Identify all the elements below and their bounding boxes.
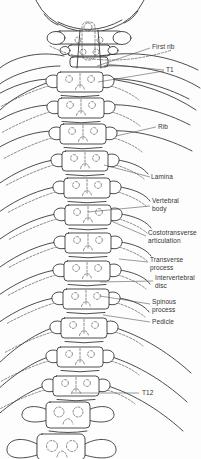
spine-diagram-figure: First rib T1 Rib Lamina Vertebral body C… bbox=[0, 0, 201, 459]
label-rib: Rib bbox=[158, 123, 168, 131]
thoracic-vertebra bbox=[0, 376, 183, 431]
label-spinous-process: Spinous process bbox=[152, 298, 186, 313]
label-lamina: Lamina bbox=[151, 173, 173, 181]
leader-lamina bbox=[104, 165, 150, 177]
label-t1: T1 bbox=[166, 66, 174, 74]
leader-t1-upper bbox=[106, 64, 164, 70]
leader-transverse-process bbox=[119, 259, 148, 262]
label-first-rib: First rib bbox=[152, 43, 175, 51]
label-costotransverse-articulation: Costotransverse articulation bbox=[148, 229, 198, 244]
label-pedicle: Pedicle bbox=[152, 318, 174, 326]
label-vertebral-body: Vertebral body bbox=[152, 197, 186, 212]
label-transverse-process: Transverse process bbox=[150, 256, 190, 271]
label-intervertebral-disc: Intervertebral disc bbox=[155, 274, 199, 289]
label-t12: T12 bbox=[142, 389, 154, 397]
lumbar-spine bbox=[7, 402, 116, 459]
skull-outline bbox=[32, 0, 148, 32]
leader-rib bbox=[116, 127, 156, 136]
